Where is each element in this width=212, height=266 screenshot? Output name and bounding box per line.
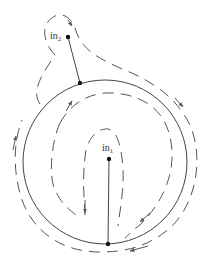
point-circle-top-left <box>78 81 82 85</box>
arrow-icon <box>140 213 150 222</box>
diagram-canvas: in1 in2 <box>0 0 212 266</box>
label-in2: in2 <box>50 30 62 43</box>
inner-dashed-flow <box>60 93 172 238</box>
arrow-icon <box>66 101 72 111</box>
main-circle <box>23 80 187 244</box>
label-in1: in1 <box>102 142 114 155</box>
segment-in2 <box>68 37 80 83</box>
inner-dashed-flow-left <box>51 123 76 215</box>
point-in1 <box>107 157 111 161</box>
outer-dashed-flow <box>15 15 197 252</box>
segment-in1 <box>108 159 109 244</box>
flow-diagram: in1 in2 <box>0 0 212 266</box>
arrow-icon <box>175 98 183 107</box>
point-in2 <box>66 35 70 39</box>
point-circle-bottom <box>106 242 110 246</box>
